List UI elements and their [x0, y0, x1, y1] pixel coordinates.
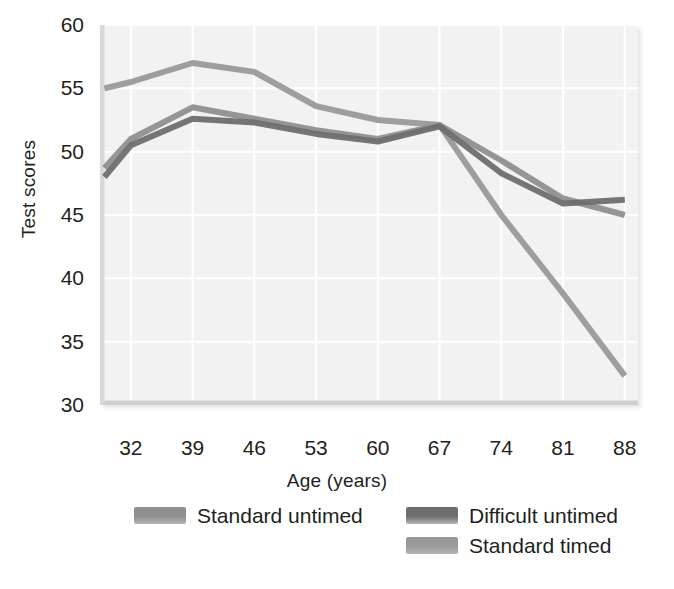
y-tick-label: 40	[42, 267, 84, 288]
y-tick-label: 45	[42, 204, 84, 225]
x-tick-label: 88	[595, 437, 655, 459]
y-axis-tick-labels: 30354045505560	[24, 0, 84, 430]
y-tick-label: 35	[42, 331, 84, 352]
y-tick-label: 50	[42, 141, 84, 162]
grid-lines	[100, 25, 638, 405]
x-axis-title: Age (years)	[0, 470, 674, 492]
x-tick-label: 60	[348, 437, 408, 459]
y-tick-label: 30	[42, 394, 84, 415]
legend-label-standard-timed: Standard timed	[469, 534, 611, 557]
x-tick-label: 32	[101, 437, 161, 459]
x-tick-label: 74	[471, 437, 531, 459]
legend-swatch-standard-untimed	[134, 507, 186, 524]
x-tick-label: 46	[224, 437, 284, 459]
legend-label-difficult-untimed: Difficult untimed	[469, 504, 618, 527]
x-tick-label: 81	[533, 437, 593, 459]
x-tick-label: 39	[163, 437, 223, 459]
chart-legend: Standard untimed Difficult untimed Stand…	[0, 500, 674, 570]
legend-swatch-standard-timed	[406, 537, 458, 554]
legend-label-standard-untimed: Standard untimed	[197, 504, 363, 527]
chart-figure: Test scores 30354045505560 3239465360677…	[0, 0, 674, 589]
legend-entry-difficult-untimed: Difficult untimed	[406, 502, 618, 528]
y-tick-label: 60	[42, 14, 84, 35]
y-tick-label: 55	[42, 77, 84, 98]
legend-entry-standard-untimed: Standard untimed	[134, 502, 363, 528]
x-tick-label: 53	[286, 437, 346, 459]
line-chart-svg	[100, 25, 638, 405]
legend-swatch-difficult-untimed	[406, 507, 458, 524]
plot-area	[100, 25, 638, 405]
x-axis-tick-labels: 323946536067748188	[0, 437, 674, 467]
legend-entry-standard-timed: Standard timed	[406, 532, 611, 558]
x-tick-label: 67	[410, 437, 470, 459]
